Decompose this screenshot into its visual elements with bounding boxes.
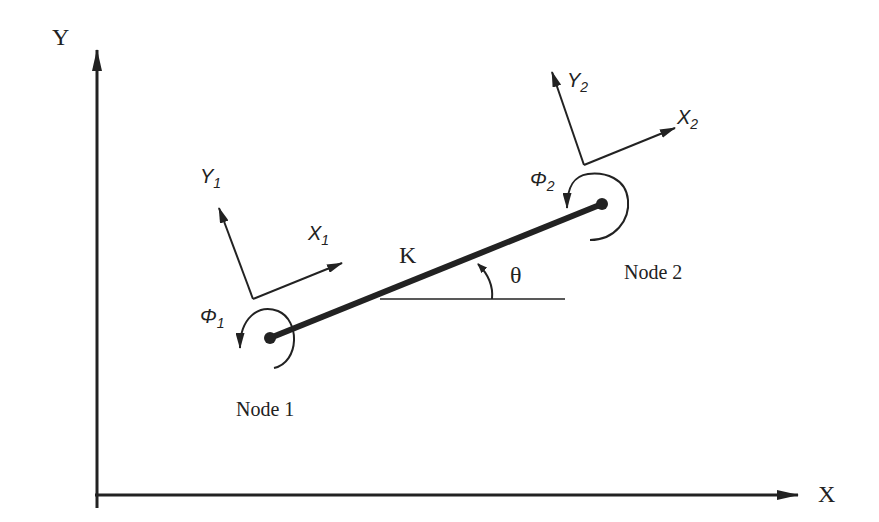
- y-axis-label: Y: [52, 24, 69, 50]
- beam-element: K θ: [264, 198, 608, 344]
- node2-point: [596, 198, 608, 210]
- node1-local-y-label: Y1: [200, 165, 221, 191]
- node1-label: Node 1: [236, 398, 294, 420]
- node2-label: Node 2: [624, 261, 682, 283]
- node1-local-y-axis: [219, 208, 253, 299]
- diagram-svg: Y X K θ Y1 X1 Φ1 Node 1 Y2 X2 Φ2 Node 2: [0, 0, 879, 522]
- angle-label: θ: [510, 262, 522, 288]
- node1-rotation-label: Φ1: [200, 305, 225, 331]
- x-axis-label: X: [818, 481, 835, 507]
- node1-local-axes: Y1 X1 Φ1 Node 1: [200, 165, 342, 420]
- stiffness-label: K: [399, 242, 417, 268]
- node2-local-x-label: X2: [676, 106, 698, 132]
- node2-local-x-axis: [584, 128, 675, 165]
- node1-local-x-axis: [253, 263, 342, 299]
- node2-local-axes: Y2 X2 Φ2 Node 2: [530, 69, 698, 283]
- node2-local-y-label: Y2: [567, 69, 588, 95]
- beam-element-diagram: Y X K θ Y1 X1 Φ1 Node 1 Y2 X2 Φ2 Node 2: [0, 0, 879, 522]
- node2-rotation-label: Φ2: [530, 168, 555, 194]
- node1-local-x-label: X1: [307, 222, 329, 248]
- node1-point: [264, 332, 276, 344]
- angle-arc-icon: [478, 264, 492, 299]
